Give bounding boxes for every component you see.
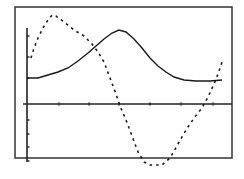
dashed-curve bbox=[31, 15, 222, 165]
line-chart bbox=[0, 0, 244, 179]
solid-curve bbox=[27, 30, 222, 81]
plot-frame bbox=[15, 7, 232, 158]
axes bbox=[23, 28, 232, 162]
